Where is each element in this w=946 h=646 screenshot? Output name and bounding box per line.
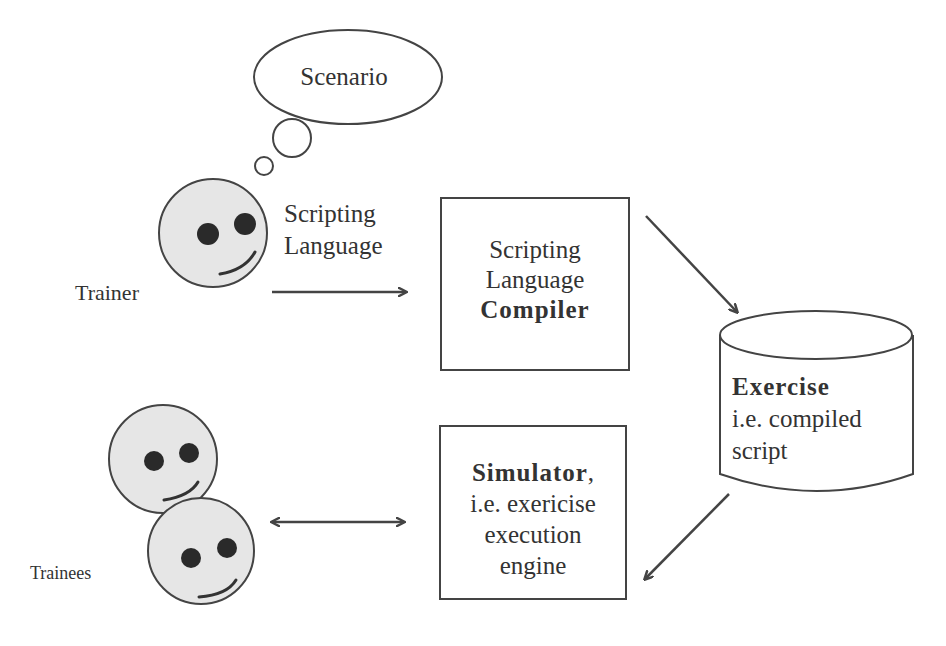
trainer-smiley-icon <box>159 179 267 287</box>
exercise-title: Exercise <box>732 373 830 400</box>
trainer-right-eye <box>234 213 256 235</box>
trainee-smiley-icon-1 <box>109 405 217 513</box>
thought-bubble-dot-large <box>273 119 311 157</box>
trainer-left-eye <box>197 223 219 245</box>
scripting-language-label-line2: Language <box>284 232 383 259</box>
compiler-line1: Scripting <box>489 236 581 263</box>
exercise-line3: script <box>732 437 788 464</box>
svg-text:Simulator,: Simulator, <box>472 459 594 486</box>
thought-bubble: Scenario <box>254 30 442 175</box>
scenario-label: Scenario <box>300 63 387 90</box>
simulator-title-suffix: , <box>588 459 594 486</box>
simulator-line3: execution <box>484 521 582 548</box>
compiler-line2: Language <box>486 266 585 293</box>
simulator-title: Simulator <box>472 459 588 486</box>
trainee-smiley-icon-2 <box>148 498 254 604</box>
simulator-line2: i.e. exericise <box>470 490 596 517</box>
trainer-label: Trainer <box>75 280 140 305</box>
arrow-compiler-to-exercise <box>646 216 737 312</box>
exercise-database-cylinder: Exercise i.e. compiled script <box>720 311 913 491</box>
exercise-line2: i.e. compiled <box>732 405 862 432</box>
simulator-line4: engine <box>500 552 567 579</box>
compiler-box: Scripting Language Compiler <box>441 198 629 370</box>
arrow-exercise-to-simulator <box>645 494 729 579</box>
thought-bubble-dot-small <box>255 157 273 175</box>
simulator-box: Simulator, i.e. exericise execution engi… <box>440 426 626 599</box>
trainees-label: Trainees <box>30 563 91 583</box>
scripting-language-label-line1: Scripting <box>284 200 376 227</box>
compiler-line3: Compiler <box>480 296 589 323</box>
training-system-diagram: Scenario Trainer Scripting Language Scri… <box>0 0 946 646</box>
